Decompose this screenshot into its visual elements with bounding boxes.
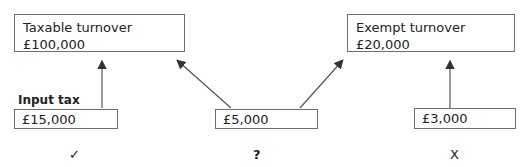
arrow-shared-to-taxable <box>178 61 231 108</box>
arrow-shared-to-exempt <box>300 61 342 108</box>
question-mark-icon: ? <box>253 147 261 162</box>
cross-mark-icon: X <box>450 147 459 162</box>
shared-input-tax-box: £5,000 <box>215 109 318 129</box>
taxable-input-tax-box: £15,000 <box>14 109 118 129</box>
input-tax-label: Input tax <box>18 93 80 107</box>
exempt-turnover-box: Exempt turnover £20,000 <box>347 14 515 52</box>
taxable-turnover-title: Taxable turnover <box>23 19 184 36</box>
taxable-turnover-value: £100,000 <box>23 36 184 53</box>
check-mark-icon: ✓ <box>69 147 80 162</box>
exempt-input-tax-box: £3,000 <box>414 108 516 129</box>
exempt-turnover-value: £20,000 <box>356 36 514 53</box>
exempt-turnover-title: Exempt turnover <box>356 19 514 36</box>
taxable-turnover-box: Taxable turnover £100,000 <box>14 14 185 52</box>
